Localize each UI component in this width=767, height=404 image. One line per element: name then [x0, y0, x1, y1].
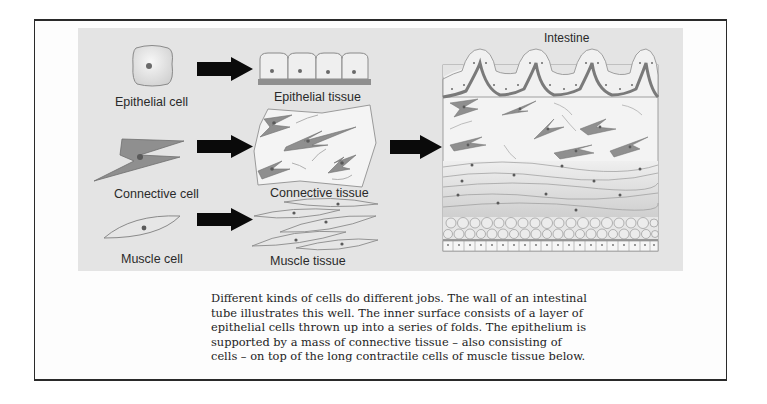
caption-line: supported by a mass of connective tissue… — [211, 335, 591, 350]
right-arrow-icon — [390, 135, 442, 159]
right-arrow-icon — [197, 57, 253, 81]
figure-caption: Different kinds of cells do different jo… — [211, 291, 591, 364]
connective-cell-illustration — [94, 137, 186, 183]
muscle-cell-illustration — [102, 212, 182, 242]
caption-line: tube illustrates this well. The inner su… — [211, 306, 591, 321]
epithelial-tissue-label: Epithelial tissue — [274, 90, 361, 104]
epithelial-tissue-illustration — [258, 51, 372, 87]
intestine-title: Intestine — [544, 31, 589, 45]
muscle-tissue-label: Muscle tissue — [270, 254, 346, 268]
epithelial-cell-label: Epithelial cell — [115, 95, 188, 109]
right-arrow-icon — [197, 208, 253, 231]
caption-line: cells – on top of the long contractile c… — [211, 349, 591, 364]
connective-cell-label: Connective cell — [114, 187, 199, 201]
caption-line: epithelial cells thrown up into a series… — [211, 320, 591, 335]
intestine-wall-illustration — [442, 45, 660, 253]
connective-tissue-illustration — [252, 103, 378, 189]
epithelial-cell-illustration — [130, 44, 176, 88]
caption-line: Different kinds of cells do different jo… — [211, 291, 591, 306]
muscle-tissue-illustration — [250, 196, 380, 252]
muscle-cell-label: Muscle cell — [121, 252, 183, 266]
right-arrow-icon — [197, 135, 253, 158]
